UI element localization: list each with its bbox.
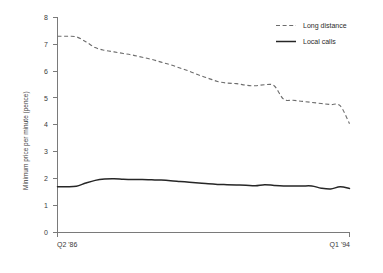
y-tick-label-2: 2	[44, 175, 48, 182]
y-axis-ticks: 8 7 6 5 4 3 2 1 0	[44, 14, 57, 236]
y-tick-label-7: 7	[44, 41, 48, 48]
legend-label-long-distance: Long distance	[303, 22, 347, 30]
y-tick-label-6: 6	[44, 68, 48, 75]
series-line-long-distance	[58, 36, 350, 123]
y-tick-label-8: 8	[44, 14, 48, 21]
y-tick-label-0: 0	[44, 229, 48, 236]
y-tick-label-4: 4	[44, 121, 48, 128]
legend: Long distance Local calls	[276, 22, 347, 45]
series-line-local-calls	[58, 179, 350, 189]
y-tick-label-3: 3	[44, 148, 48, 155]
chart-container: Minimum price per minute (pence) 8 7 6 5…	[0, 0, 383, 273]
x-axis-end-label: Q1 '94	[330, 241, 351, 249]
y-tick-label-5: 5	[44, 95, 48, 102]
x-axis-start-label: Q2 '86	[57, 241, 78, 249]
y-tick-label-1: 1	[44, 202, 48, 209]
y-axis-title: Minimum price per minute (pence)	[22, 91, 30, 190]
legend-label-local-calls: Local calls	[303, 38, 336, 45]
line-chart: Minimum price per minute (pence) 8 7 6 5…	[0, 0, 383, 273]
